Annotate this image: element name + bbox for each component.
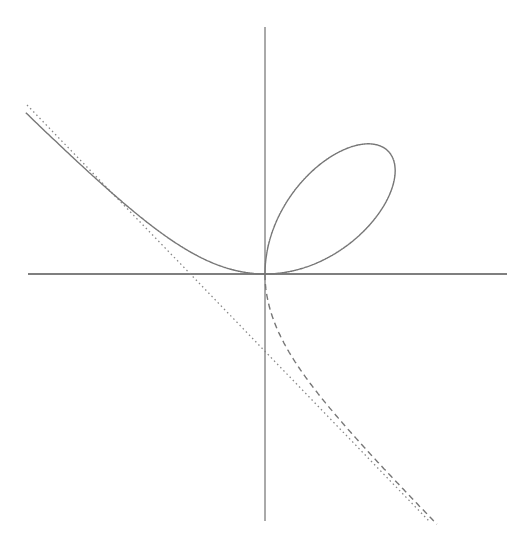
folium-diagram xyxy=(0,0,519,546)
folium-solid-branch xyxy=(26,113,395,274)
asymptote-line xyxy=(27,105,429,521)
folium-dashed-branch xyxy=(265,274,437,524)
